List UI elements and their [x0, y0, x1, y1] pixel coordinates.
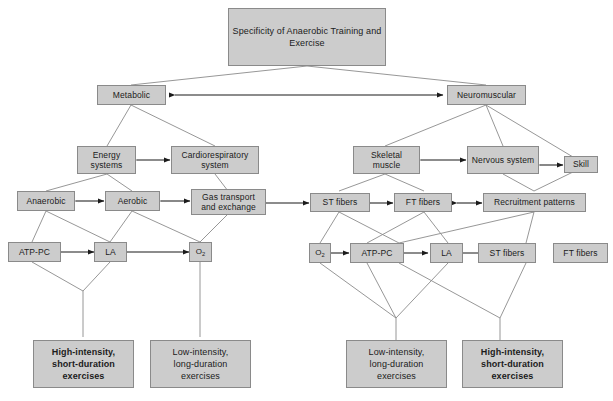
node-energy-systems-label: Energy systems	[80, 150, 133, 170]
node-o2-right: O2	[309, 243, 331, 263]
node-atp-pc-right: ATP-PC	[350, 243, 404, 263]
node-neuromuscular-label: Neuromuscular	[457, 90, 516, 100]
node-root-title: Specificity of Anaerobic Training and Ex…	[228, 8, 386, 66]
node-anaerobic-label: Anaerobic	[26, 196, 65, 206]
node-gas-transport-label: Gas transport and exchange	[194, 192, 263, 212]
node-energy-systems: Energy systems	[77, 146, 136, 174]
node-root-title-label: Specificity of Anaerobic Training and Ex…	[231, 25, 383, 49]
node-ft-fibers-mid: FT fibers	[394, 193, 452, 212]
node-aerobic-label: Aerobic	[118, 196, 148, 206]
leaf-high-left-line2: short-duration	[52, 358, 115, 370]
node-ft-fibers-mid-label: FT fibers	[406, 197, 440, 207]
node-skill-label: Skill	[573, 159, 589, 169]
node-o2-right-label: O2	[315, 248, 325, 257]
leaf-low-left-line3: exercises	[181, 370, 220, 382]
node-o2-left: O2	[189, 242, 212, 262]
node-gas-transport-and-exchange: Gas transport and exchange	[191, 189, 266, 215]
node-recruitment-patterns: Recruitment patterns	[483, 193, 586, 212]
node-leaf-high-intensity-left: High-intensity, short-duration exercises	[33, 340, 134, 388]
node-o2-left-label: O2	[196, 247, 206, 256]
leaf-high-right-line3: exercises	[492, 370, 534, 382]
node-st-fibers-bottom-label: ST fibers	[490, 248, 525, 258]
node-nervous-system-label: Nervous system	[472, 155, 534, 165]
node-cardiorespiratory-system-label: Cardiorespiratory system	[174, 150, 256, 170]
node-neuromuscular: Neuromuscular	[447, 85, 526, 105]
node-leaf-low-intensity-right: Low-intensity, long-duration exercises	[346, 340, 447, 388]
leaf-low-right-line1: Low-intensity,	[369, 346, 425, 358]
leaf-high-right-line1: High-intensity,	[481, 346, 544, 358]
node-metabolic-label: Metabolic	[113, 90, 150, 100]
node-st-fibers-mid-label: ST fibers	[323, 197, 358, 207]
node-ft-fibers-bottom-label: FT fibers	[563, 248, 597, 258]
leaf-low-right-line2: long-duration	[370, 358, 424, 370]
node-atp-pc-right-label: ATP-PC	[361, 248, 392, 258]
leaf-high-left-line3: exercises	[63, 370, 105, 382]
node-la-left-label: LA	[105, 247, 116, 257]
node-atp-pc-left: ATP-PC	[8, 242, 61, 262]
leaf-low-left-line1: Low-intensity,	[173, 346, 229, 358]
node-la-left: LA	[94, 242, 127, 262]
node-skeletal-muscle-label: Skeletal muscle	[356, 150, 417, 170]
node-aerobic: Aerobic	[105, 191, 160, 211]
node-atp-pc-left-label: ATP-PC	[19, 247, 50, 257]
leaf-low-left-line2: long-duration	[174, 358, 228, 370]
anaerobic-specificity-diagram: Specificity of Anaerobic Training and Ex…	[0, 0, 613, 401]
leaf-low-right-line3: exercises	[377, 370, 416, 382]
node-leaf-low-intensity-left: Low-intensity, long-duration exercises	[150, 340, 251, 388]
node-skeletal-muscle: Skeletal muscle	[353, 146, 420, 174]
node-st-fibers-bottom: ST fibers	[478, 243, 536, 263]
leaf-high-right-line2: short-duration	[481, 358, 544, 370]
leaf-high-left-line1: High-intensity,	[52, 346, 115, 358]
node-ft-fibers-bottom: FT fibers	[553, 243, 608, 263]
node-skill: Skill	[564, 156, 598, 173]
node-la-right-label: LA	[441, 248, 452, 258]
node-cardiorespiratory-system: Cardiorespiratory system	[171, 146, 259, 174]
node-anaerobic: Anaerobic	[17, 191, 75, 211]
node-leaf-high-intensity-right: High-intensity, short-duration exercises	[462, 340, 563, 388]
node-st-fibers-mid: ST fibers	[310, 193, 370, 212]
node-la-right: LA	[430, 243, 463, 263]
node-nervous-system: Nervous system	[467, 146, 539, 174]
node-recruitment-patterns-label: Recruitment patterns	[494, 197, 575, 207]
node-metabolic: Metabolic	[97, 85, 166, 105]
